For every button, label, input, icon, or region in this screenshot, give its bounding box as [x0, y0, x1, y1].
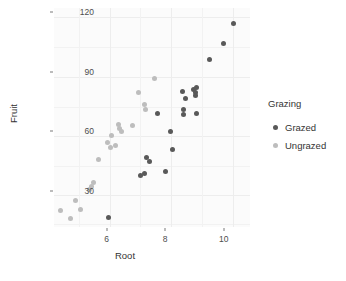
- legend-title: Grazing: [268, 98, 346, 109]
- x-tick-label-10: 10: [219, 234, 228, 244]
- data-point-ungrazed: [152, 76, 157, 81]
- legend-label-grazed: Grazed: [285, 122, 316, 133]
- x-axis-title: Root: [0, 250, 250, 261]
- y-tick-label-90: 90: [85, 67, 94, 77]
- data-point-ungrazed: [143, 107, 148, 112]
- data-point-grazed: [170, 147, 175, 152]
- gridline-x-5: [79, 8, 80, 227]
- x-tick-mark-10: [223, 228, 224, 231]
- x-tick-label-6: 6: [104, 234, 109, 244]
- y-tick-mark-120: [50, 11, 53, 12]
- data-point-grazed: [231, 21, 236, 26]
- legend-item-grazed[interactable]: Grazed: [268, 118, 346, 136]
- data-point-ungrazed: [119, 129, 124, 134]
- legend-key-grazed: [268, 120, 282, 134]
- data-point-grazed: [194, 111, 199, 116]
- gridline-x-9: [202, 8, 203, 227]
- y-tick-label-30: 30: [85, 186, 94, 196]
- data-point-ungrazed: [68, 216, 73, 221]
- y-axis-title-text: Fruit: [8, 104, 19, 123]
- data-point-ungrazed: [73, 198, 78, 203]
- data-point-grazed: [163, 169, 168, 174]
- gridline-x-6: [110, 8, 111, 227]
- data-point-grazed: [155, 111, 160, 116]
- gridline-y-15: [54, 224, 250, 225]
- data-point-ungrazed: [109, 133, 114, 138]
- plot-panel: [54, 8, 250, 227]
- x-tick-mark-8: [165, 228, 166, 231]
- scatter-chart: 306090120 6810 Root Fruit Grazing Grazed…: [0, 0, 346, 281]
- y-tick-mark-90: [50, 71, 53, 72]
- data-point-grazed: [142, 171, 147, 176]
- y-tick-label-120: 120: [80, 7, 94, 17]
- gridline-y-30: [54, 195, 250, 196]
- data-point-ungrazed: [58, 208, 63, 213]
- gridline-y-75: [54, 107, 250, 108]
- data-point-grazed: [183, 96, 188, 101]
- legend-label-ungrazed: Ungrazed: [285, 140, 326, 151]
- legend-dot-icon: [273, 125, 278, 130]
- legend-item-ungrazed[interactable]: Ungrazed: [268, 136, 346, 154]
- data-point-grazed: [181, 112, 186, 117]
- legend: Grazing GrazedUngrazed: [268, 98, 346, 154]
- data-point-ungrazed: [96, 157, 101, 162]
- y-axis-title: Fruit: [4, 0, 23, 227]
- legend-dot-icon: [273, 143, 278, 148]
- legend-key-ungrazed: [268, 138, 282, 152]
- data-point-grazed: [147, 159, 152, 164]
- data-point-grazed: [180, 89, 185, 94]
- data-point-ungrazed: [78, 207, 83, 212]
- data-point-grazed: [221, 41, 226, 46]
- legend-entries: GrazedUngrazed: [268, 118, 346, 154]
- gridline-y-45: [54, 166, 250, 167]
- x-tick-mark-6: [106, 228, 107, 231]
- x-tick-label-8: 8: [163, 234, 168, 244]
- data-point-grazed: [207, 57, 212, 62]
- data-point-grazed: [194, 85, 199, 90]
- data-point-grazed: [168, 129, 173, 134]
- gridline-x-8: [171, 8, 172, 227]
- gridline-y-105: [54, 47, 250, 48]
- data-point-grazed: [193, 93, 198, 98]
- data-point-ungrazed: [113, 143, 118, 148]
- gridline-x-7: [140, 8, 141, 227]
- data-point-ungrazed: [130, 123, 135, 128]
- gridline-y-60: [54, 136, 250, 137]
- y-tick-label-60: 60: [85, 126, 94, 136]
- y-tick-mark-60: [50, 131, 53, 132]
- data-point-ungrazed: [91, 180, 96, 185]
- y-tick-mark-30: [50, 191, 53, 192]
- gridline-y-120: [54, 17, 250, 18]
- gridline-x-10: [233, 8, 234, 227]
